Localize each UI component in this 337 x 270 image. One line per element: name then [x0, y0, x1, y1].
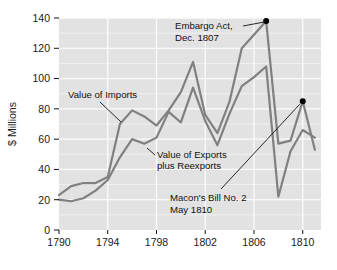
y-tick-label: 80 — [38, 103, 50, 115]
y-tick-label: 100 — [32, 72, 50, 84]
x-tick-label: 1798 — [145, 236, 169, 248]
x-tick-label: 1810 — [291, 236, 315, 248]
y-tick-label: 20 — [38, 194, 50, 206]
macons-bill-annotation-line2: May 1810 — [170, 204, 212, 215]
y-axis-title: $ Millions — [6, 102, 18, 146]
imports-label: Value of Imports — [68, 89, 137, 100]
exports-label-line2: plus Reexports — [157, 160, 221, 171]
embargo-act-annotation-line2: Dec. 1807 — [175, 32, 219, 43]
x-tick-label: 1794 — [96, 236, 120, 248]
line-chart: 020406080100120140 179017941798180218061… — [0, 0, 337, 270]
x-tick-label: 1802 — [194, 236, 218, 248]
y-tick-label: 40 — [38, 163, 50, 175]
y-tick-label: 120 — [32, 42, 50, 54]
y-tick-label: 0 — [44, 224, 50, 236]
exports-label-line1: Value of Exports — [157, 149, 227, 160]
x-tick-label: 1790 — [47, 236, 71, 248]
macons-bill-annotation-line1: Macon's Bill No. 2 — [170, 192, 246, 203]
y-tick-label: 60 — [38, 133, 50, 145]
macons-bill-marker-dot — [300, 98, 306, 104]
embargo-act-annotation-line1: Embargo Act, — [175, 20, 233, 31]
y-tick-label: 140 — [32, 12, 50, 24]
embargo-act-marker-dot — [263, 18, 269, 24]
chart-figure: 020406080100120140 179017941798180218061… — [0, 0, 337, 270]
x-tick-label: 1806 — [242, 236, 266, 248]
